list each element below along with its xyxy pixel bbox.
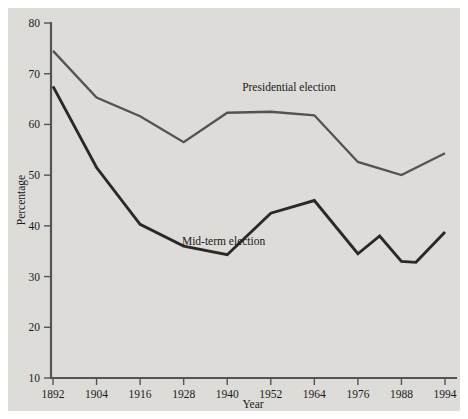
x-tick-label: 1892 [42,388,65,400]
y-axis-title: Percentage [15,175,28,225]
y-tick-label: 50 [29,169,41,181]
y-tick-label: 20 [29,321,41,333]
y-tick-label: 30 [29,271,41,283]
y-tick-label: 80 [29,17,41,29]
chart-page: 1020304050607080 18921904191619281940195… [0,0,468,419]
x-tick-label: 1964 [303,388,326,400]
y-tick-label: 10 [29,372,41,384]
x-tick-label: 1988 [390,388,413,400]
y-tick-labels: 1020304050607080 [29,17,41,384]
x-tick-label: 1976 [346,388,369,400]
series-annotation-label: Mid-term election [182,235,266,247]
x-tick-label: 1916 [129,388,152,400]
series-annotation-label: Presidential election [242,81,336,93]
x-axis-title: Year [242,398,263,410]
axis-lines [51,23,456,378]
x-tick-label: 1904 [85,388,108,400]
x-tick-label: 1994 [434,388,457,400]
y-tick-label: 70 [29,68,41,80]
x-tick-label: 1928 [172,388,195,400]
y-tick-label: 60 [29,118,41,130]
series-line-presidential-election [53,51,445,175]
line-chart: 1020304050607080 18921904191619281940195… [0,0,468,419]
series-annotations: Presidential electionMid-term election [182,81,336,247]
y-tick-label: 40 [29,220,41,232]
x-tick-label: 1940 [216,388,239,400]
axes [44,23,456,385]
